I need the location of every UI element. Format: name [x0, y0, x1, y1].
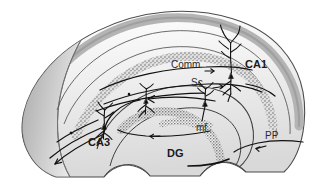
hippocampus-diagram-svg: CA1 CA3 DG Comm Sc mf PP [0, 0, 315, 193]
label-pp: PP [265, 130, 279, 141]
label-mf: mf [196, 122, 207, 133]
label-dg: DG [167, 147, 184, 159]
hippocampus-circuit-figure: CA1 CA3 DG Comm Sc mf PP [0, 0, 315, 193]
label-ca3: CA3 [88, 136, 110, 148]
label-ca1: CA1 [245, 58, 267, 70]
label-comm: Comm [171, 59, 200, 70]
label-sc: Sc [191, 77, 203, 88]
